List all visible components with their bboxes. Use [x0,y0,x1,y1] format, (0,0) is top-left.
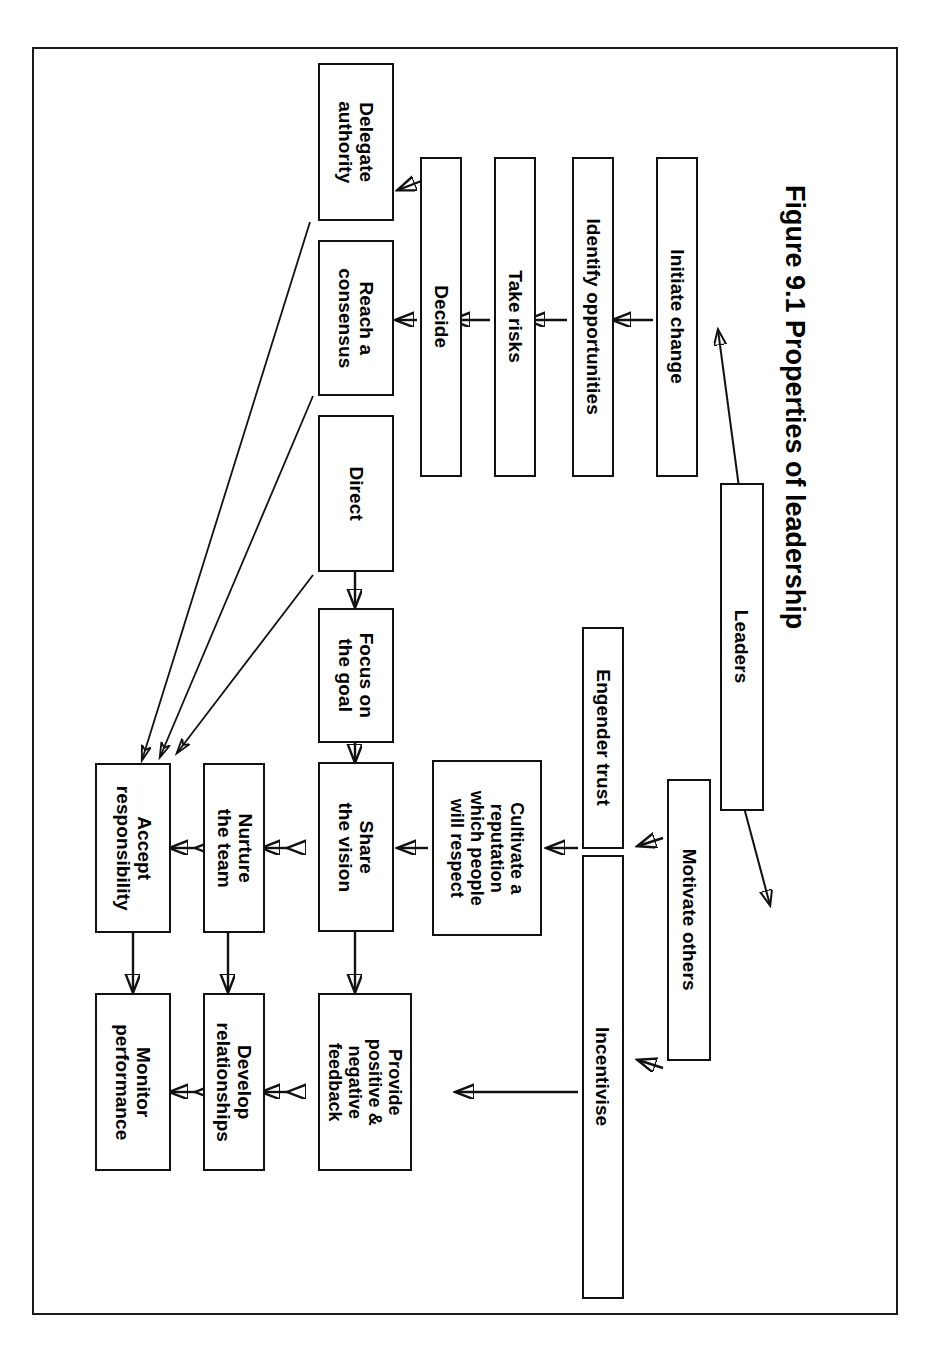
node-engender-trust[interactable]: Engender trust [582,627,624,849]
figure-page: Figure 9.1 Properties of leadership Dele… [0,0,933,1346]
node-reach-a-consensus[interactable]: Reach a consensus [318,240,394,396]
node-incentivise[interactable]: Incentivise [582,855,624,1299]
node-decide[interactable]: Decide [420,157,462,477]
node-label: Initiate change [666,250,687,385]
node-accept-responsibility[interactable]: Accept responsibility [95,763,171,933]
node-label: Nurture the team [213,809,256,888]
node-monitor-performance[interactable]: Monitor performance [95,993,171,1171]
node-direct[interactable]: Direct [318,415,394,572]
node-identify-opportunities[interactable]: Identify opportunities [572,157,614,477]
node-cultivate-reputation[interactable]: Cultivate a reputation which people will… [432,760,542,936]
node-label: Develop relationships [213,1022,256,1142]
node-label: Motivate others [678,849,699,991]
figure-title: Figure 9.1 Properties of leadership [779,185,810,629]
node-label: Monitor performance [112,1024,155,1140]
node-take-risks[interactable]: Take risks [494,157,536,477]
node-share-the-vision[interactable]: Share the vision [318,762,394,932]
node-provide-feedback[interactable]: Provide positive & negative feedback [318,993,412,1171]
node-label: Share the vision [335,802,378,892]
node-label: Reach a consensus [335,268,378,368]
node-label: Engender trust [592,670,613,807]
node-label: Cultivate a reputation which people will… [447,790,528,905]
node-label: Delegate authority [335,101,378,183]
node-develop-relationships[interactable]: Develop relationships [203,993,265,1171]
node-label: Leaders [731,610,752,684]
node-label: Focus on the goal [335,633,378,718]
node-label: Provide positive & negative feedback [325,1038,406,1125]
node-motivate-others[interactable]: Motivate others [667,779,711,1061]
node-label: Incentivise [592,1027,613,1126]
node-nurture-the-team[interactable]: Nurture the team [203,763,265,933]
node-focus-on-the-goal[interactable]: Focus on the goal [318,608,394,743]
node-label: Direct [345,466,366,520]
node-label: Accept responsibility [112,786,155,911]
node-label: Take risks [504,271,525,364]
node-delegate-authority[interactable]: Delegate authority [318,63,394,221]
node-initiate-change[interactable]: Initiate change [656,157,698,477]
node-leaders[interactable]: Leaders [720,483,764,811]
node-label: Decide [430,286,451,349]
node-label: Identify opportunities [582,219,603,415]
